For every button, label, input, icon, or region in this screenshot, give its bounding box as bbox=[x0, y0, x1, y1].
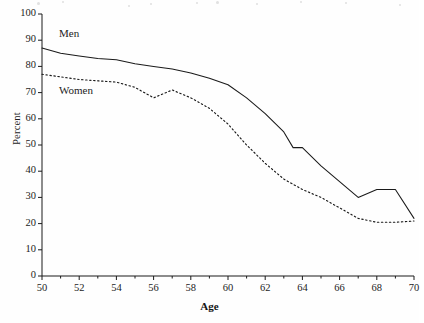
y-tick-label: 100 bbox=[10, 7, 36, 18]
x-tick-marks bbox=[42, 276, 414, 280]
series-line-men bbox=[42, 48, 414, 218]
scan-speck bbox=[216, 1, 219, 4]
x-tick-label: 50 bbox=[30, 282, 54, 293]
scan-speck bbox=[256, 3, 258, 5]
scan-speck bbox=[196, 2, 198, 4]
y-tick-label: 90 bbox=[10, 33, 36, 44]
x-axis-title: Age bbox=[0, 300, 419, 312]
series-line-women bbox=[42, 74, 414, 222]
x-tick-label: 56 bbox=[142, 282, 166, 293]
x-tick-label: 62 bbox=[253, 282, 277, 293]
y-tick-label: 40 bbox=[10, 164, 36, 175]
scan-speck bbox=[399, 4, 401, 6]
y-tick-marks bbox=[38, 14, 42, 276]
scan-speck bbox=[62, 1, 64, 3]
x-tick-label: 66 bbox=[328, 282, 352, 293]
x-tick-label: 64 bbox=[290, 282, 314, 293]
series-label-men: Men bbox=[59, 27, 79, 39]
y-tick-label: 70 bbox=[10, 86, 36, 97]
x-tick-label: 70 bbox=[402, 282, 424, 293]
scan-speck bbox=[128, 5, 130, 7]
scan-speck bbox=[300, 1, 302, 3]
y-tick-label: 0 bbox=[10, 269, 36, 280]
y-tick-label: 10 bbox=[10, 243, 36, 254]
scan-speck bbox=[150, 3, 152, 5]
x-tick-label: 58 bbox=[179, 282, 203, 293]
y-tick-label: 50 bbox=[10, 138, 36, 149]
series-label-women: Women bbox=[59, 84, 93, 96]
x-tick-label: 68 bbox=[365, 282, 389, 293]
chart-axes bbox=[38, 14, 414, 280]
x-tick-label: 52 bbox=[67, 282, 91, 293]
x-tick-label: 60 bbox=[216, 282, 240, 293]
scan-speck bbox=[345, 2, 347, 4]
y-tick-label: 30 bbox=[10, 190, 36, 201]
y-tick-label: 20 bbox=[10, 217, 36, 228]
x-tick-label: 54 bbox=[104, 282, 128, 293]
y-axis-title: Percent bbox=[11, 94, 22, 164]
scan-speck bbox=[37, 2, 40, 5]
y-tick-label: 80 bbox=[10, 59, 36, 70]
y-tick-label: 60 bbox=[10, 112, 36, 123]
